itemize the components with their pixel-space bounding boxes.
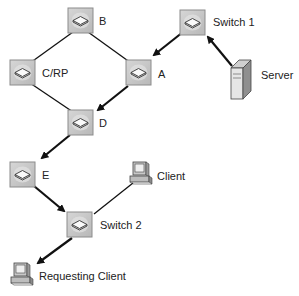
link-a-d — [98, 86, 128, 110]
client-computer-icon — [130, 162, 152, 184]
label-crp: C/RP — [42, 67, 68, 79]
label-server: Server — [261, 69, 293, 81]
router-crp-icon — [10, 60, 35, 85]
link-server-switch1 — [208, 37, 232, 66]
label-a: A — [158, 68, 165, 80]
link-e-switch2 — [34, 186, 64, 211]
router-a-icon — [126, 60, 151, 85]
label-switch1: Switch 1 — [213, 16, 255, 28]
router-e-icon — [10, 162, 35, 187]
switch2-icon — [67, 212, 92, 237]
label-d: D — [99, 117, 107, 129]
network-diagram — [0, 0, 299, 296]
link-switch2-requesting — [38, 238, 72, 263]
label-e: E — [42, 169, 49, 181]
link-b-a — [88, 32, 131, 63]
label-client: Client — [157, 170, 185, 182]
router-b-icon — [68, 8, 93, 33]
link-b-crp — [30, 32, 73, 63]
link-client-switch2 — [94, 183, 133, 214]
label-b: B — [99, 15, 106, 27]
router-d-icon — [68, 110, 93, 135]
link-d-e — [42, 135, 70, 158]
server-icon — [231, 60, 251, 99]
link-crp-d — [30, 83, 73, 112]
label-switch2: Switch 2 — [100, 219, 142, 231]
link-switch1-a — [154, 32, 183, 55]
label-requesting-client: Requesting Client — [39, 270, 126, 282]
switch1-icon — [180, 10, 205, 35]
requesting-client-computer-icon — [11, 263, 33, 285]
